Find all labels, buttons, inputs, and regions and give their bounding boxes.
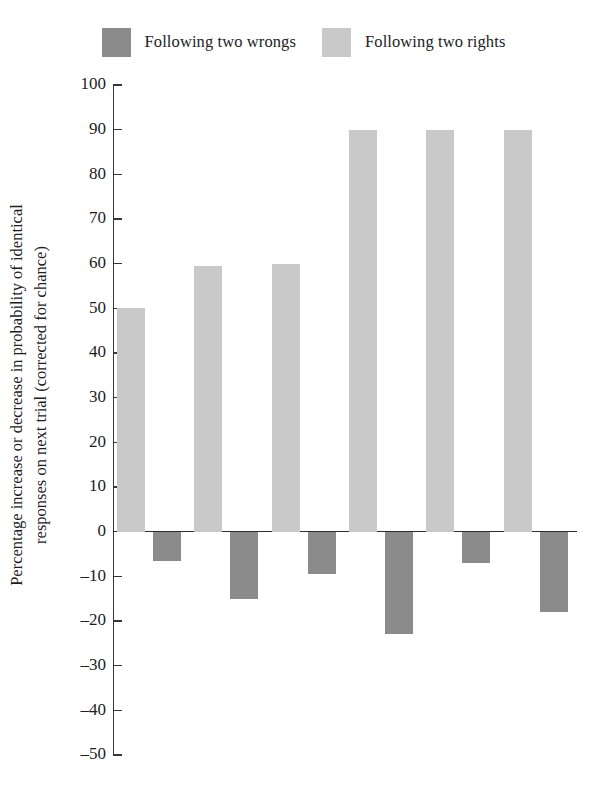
y-axis-tick-label: –30	[81, 656, 107, 673]
y-axis-title-line-2: responses on next trial (corrected for c…	[31, 246, 52, 544]
bar	[426, 130, 454, 532]
bar	[272, 264, 300, 532]
bar	[349, 130, 377, 532]
legend-swatch-icon	[322, 28, 351, 57]
bar	[308, 532, 336, 574]
y-axis-tick: 80	[113, 174, 122, 175]
bar	[504, 130, 532, 532]
y-axis-tick-label: 10	[89, 477, 106, 494]
y-axis-tick-label: 20	[89, 433, 106, 450]
bar	[540, 532, 568, 612]
y-axis-tick-label: 80	[89, 165, 106, 182]
y-axis-tick: 60	[113, 263, 122, 264]
y-axis-tick-label: 70	[89, 209, 106, 226]
y-axis-tick: –20	[113, 620, 122, 621]
legend-entry[interactable]: Following two wrongs	[102, 28, 296, 57]
bar	[462, 532, 490, 563]
y-axis-tick-label: 100	[81, 75, 107, 92]
legend-swatch-icon	[102, 28, 131, 57]
y-axis-tick: –10	[113, 576, 122, 577]
bar	[385, 532, 413, 635]
y-axis-tick-label: 40	[89, 343, 106, 360]
y-axis-tick: 70	[113, 218, 122, 219]
y-axis-tick: –30	[113, 665, 122, 666]
y-axis-tick-label: –10	[81, 567, 107, 584]
bar	[117, 308, 145, 531]
y-axis-tick-label: 0	[98, 522, 107, 539]
y-axis-tick: 100	[113, 84, 122, 85]
y-axis-title-line-1: Percentage increase or decrease in proba…	[7, 204, 28, 586]
bar	[194, 266, 222, 532]
y-axis-tick-label: 90	[89, 120, 106, 137]
legend-label: Following two rights	[365, 34, 505, 51]
y-axis-tick-label: 60	[89, 254, 106, 271]
y-axis-tick-label: 50	[89, 299, 106, 316]
legend-entry[interactable]: Following two rights	[322, 28, 505, 57]
y-axis-tick-label: –40	[81, 701, 107, 718]
y-axis-tick: –40	[113, 710, 122, 711]
bar	[153, 532, 181, 561]
chart-legend: Following two wrongsFollowing two rights	[0, 28, 607, 57]
y-axis-tick-label: –50	[81, 745, 107, 762]
plot-area: 1009080706050403020100–10–20–30–40–50	[113, 85, 577, 755]
bar-chart-figure: Following two wrongsFollowing two rights…	[0, 0, 607, 790]
bar	[230, 532, 258, 599]
y-axis-tick: 90	[113, 129, 122, 130]
y-axis-tick-label: –20	[81, 611, 107, 628]
y-axis-title: Percentage increase or decrease in proba…	[0, 0, 58, 790]
legend-label: Following two wrongs	[145, 34, 296, 51]
y-axis-tick-label: 30	[89, 388, 106, 405]
y-axis-spine	[113, 85, 114, 755]
y-axis-tick: –50	[113, 754, 122, 755]
